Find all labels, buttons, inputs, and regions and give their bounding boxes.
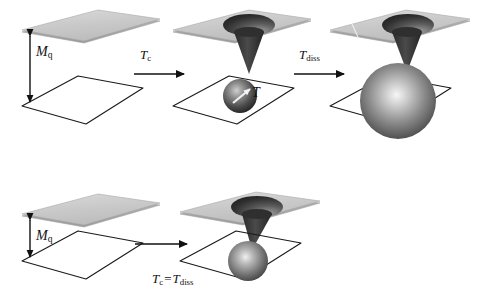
label-tc-eq-operator: = bbox=[163, 271, 172, 286]
label-mq-top: Mq bbox=[36, 45, 52, 61]
top-plate-1 bbox=[22, 10, 160, 43]
label-tdiss-arrow-subscript: diss bbox=[306, 53, 320, 63]
label-t-sphere-symbol: T bbox=[252, 85, 260, 100]
label-mq-top-subscript: q bbox=[48, 50, 53, 60]
figure-root: Mq Tc Tdiss T Mq Tc=Tdiss bbox=[0, 0, 483, 301]
medium-sphere-5 bbox=[228, 241, 268, 281]
label-mq-bottom-symbol: M bbox=[36, 228, 48, 243]
label-tc-arrow-subscript: c bbox=[147, 53, 151, 63]
diagram-canvas bbox=[0, 0, 483, 301]
label-tc-eq-tdiss: Tc=Tdiss bbox=[152, 272, 193, 287]
label-t-sphere: T bbox=[252, 86, 260, 100]
label-tdiss-arrow: Tdiss bbox=[299, 48, 320, 63]
panel-2-small-sphere bbox=[173, 10, 311, 124]
cone-2 bbox=[234, 32, 264, 74]
label-mq-bottom: Mq bbox=[36, 229, 52, 245]
panel-1-separated bbox=[22, 10, 160, 124]
panel-5-touching-sphere bbox=[180, 192, 320, 281]
label-mq-bottom-subscript: q bbox=[48, 234, 53, 244]
label-tc-arrow: Tc bbox=[140, 48, 151, 63]
label-tc-eq-right-symbol: T bbox=[173, 271, 180, 286]
bottom-frame-1 bbox=[22, 76, 143, 124]
top-plate-4 bbox=[22, 194, 160, 227]
panel-3-large-sphere bbox=[330, 10, 470, 139]
large-sphere-3 bbox=[360, 63, 436, 139]
label-tc-eq-right-subscript: diss bbox=[180, 277, 194, 287]
label-mq-top-symbol: M bbox=[36, 44, 48, 59]
